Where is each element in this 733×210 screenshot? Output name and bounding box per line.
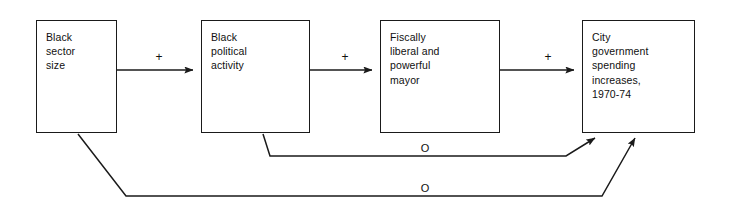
node-black-political-activity: Black political activity — [201, 20, 310, 133]
edge-sign-mayor-to-spending: + — [540, 51, 556, 63]
causal-diagram: Black sector size Black political activi… — [0, 0, 733, 210]
edge-sign-activity-to-mayor: + — [337, 51, 353, 63]
edge-sign-sector-to-activity: + — [151, 51, 167, 63]
node-black-sector-size: Black sector size — [36, 20, 117, 133]
node-city-government-spending: City government spending increases, 1970… — [582, 20, 695, 133]
node-label-black-sector-size: Black sector size — [46, 30, 112, 73]
edge-sign-activity-to-spending-feedback: O — [417, 143, 433, 154]
connector-sector-to-spending-feedback — [78, 134, 635, 196]
node-label-black-political-activity: Black political activity — [211, 30, 305, 73]
node-label-fiscally-liberal-mayor: Fiscally liberal and powerful mayor — [390, 30, 495, 87]
edge-sign-sector-to-spending-feedback: O — [417, 183, 433, 194]
node-label-city-government-spending: City government spending increases, 1970… — [592, 30, 690, 101]
node-fiscally-liberal-mayor: Fiscally liberal and powerful mayor — [380, 20, 500, 133]
